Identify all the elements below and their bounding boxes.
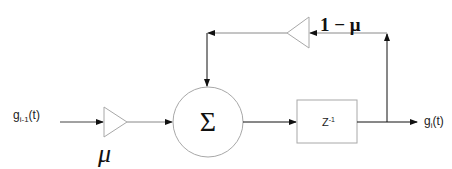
input-gain-triangle <box>104 107 127 137</box>
input-label: gi-1(t) <box>13 108 40 124</box>
block-diagram: gi-1(t) μ Σ Z-1 gi(t) 1 − μ <box>0 0 452 169</box>
input-gain-label: μ <box>97 139 111 168</box>
output-label: gi(t) <box>424 114 444 130</box>
summer-symbol: Σ <box>200 106 216 137</box>
feedback-gain-triangle <box>287 17 309 48</box>
feedback-gain-label: 1 − μ <box>320 14 361 35</box>
